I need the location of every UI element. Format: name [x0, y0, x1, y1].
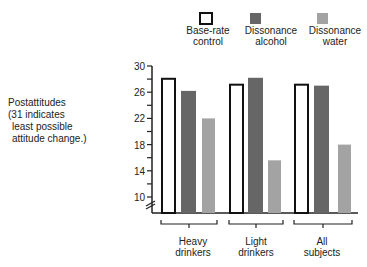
legend-swatch-water — [317, 13, 328, 24]
bar-alcohol — [248, 78, 263, 213]
category-bracket — [294, 220, 352, 228]
category-bracket — [161, 220, 217, 228]
bar-control — [295, 85, 308, 213]
category-bracket — [229, 220, 283, 228]
y-tick-label: 30 — [134, 61, 146, 72]
y-tick-label: 18 — [134, 140, 146, 151]
category-label-light: Lightdrinkers — [231, 236, 281, 258]
legend-swatch-control — [200, 13, 212, 24]
y-tick-label: 10 — [134, 192, 146, 203]
bar-chart: 101418222630 — [0, 0, 367, 267]
bar-water — [202, 118, 215, 213]
category-label-all: Allsubjects — [297, 236, 347, 258]
y-tick-label: 22 — [134, 113, 146, 124]
y-tick-label: 26 — [134, 87, 146, 98]
legend-swatch-alcohol — [250, 13, 261, 24]
category-label-heavy: Heavydrinkers — [168, 236, 218, 258]
bar-control — [162, 79, 175, 213]
bar-alcohol — [181, 91, 196, 213]
bar-water — [338, 145, 351, 213]
bar-water — [268, 160, 281, 213]
bar-control — [230, 85, 243, 213]
y-tick-label: 14 — [134, 166, 146, 177]
bar-alcohol — [314, 86, 329, 213]
